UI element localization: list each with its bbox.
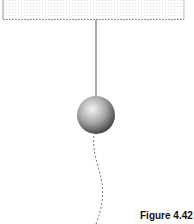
pendulum-bob — [77, 96, 115, 134]
ceiling-support — [3, 0, 184, 20]
figure-label: Figure 4.42 — [140, 210, 193, 221]
trajectory-path — [94, 136, 103, 224]
pendulum-diagram: Figure 4.42C — [0, 0, 194, 224]
figure-caption: Figure 4.42C — [140, 210, 194, 221]
